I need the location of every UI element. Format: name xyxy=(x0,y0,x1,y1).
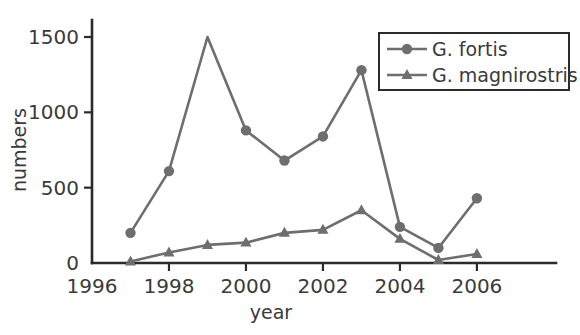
chart-container: 050010001500 199619982000200220042006 ye… xyxy=(0,0,580,335)
y-tick-label: 500 xyxy=(41,176,79,200)
data-point-marker xyxy=(394,233,405,243)
y-tick-label: 1000 xyxy=(28,100,79,124)
legend: G. fortisG. magnirostris xyxy=(379,33,578,90)
y-axis-title: numbers xyxy=(8,108,30,192)
legend-label: G. fortis xyxy=(432,38,508,60)
x-axis-title: year xyxy=(250,301,293,323)
y-tick-label: 0 xyxy=(66,251,79,275)
x-tick-label: 2006 xyxy=(451,274,502,298)
x-tick-label: 2004 xyxy=(374,274,425,298)
x-tick-label: 2000 xyxy=(221,274,272,298)
legend-marker-circle-icon xyxy=(402,44,412,54)
y-tick-label: 1500 xyxy=(28,25,79,49)
series-2 xyxy=(125,204,482,265)
line-chart: 050010001500 199619982000200220042006 ye… xyxy=(0,0,580,335)
data-point-marker xyxy=(164,166,174,176)
data-point-marker xyxy=(318,131,328,141)
data-point-marker xyxy=(356,204,367,214)
x-tick-label: 2002 xyxy=(297,274,348,298)
data-point-marker xyxy=(241,125,251,135)
data-point-marker xyxy=(279,155,289,165)
x-tick-label: 1998 xyxy=(144,274,195,298)
x-axis-ticks: 199619982000200220042006 xyxy=(67,263,503,298)
data-point-marker xyxy=(125,228,135,238)
legend-label: G. magnirostris xyxy=(432,64,578,86)
y-axis-ticks: 050010001500 xyxy=(28,25,92,275)
data-point-marker xyxy=(471,248,482,258)
data-point-marker xyxy=(433,243,443,253)
data-point-marker xyxy=(356,65,366,75)
x-tick-label: 1996 xyxy=(67,274,118,298)
data-point-marker xyxy=(395,222,405,232)
data-point-marker xyxy=(472,193,482,203)
series-line xyxy=(130,210,476,261)
